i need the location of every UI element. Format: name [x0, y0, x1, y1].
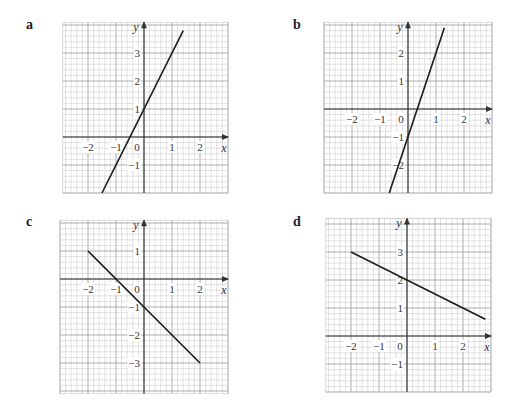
x-axis-label: x [220, 141, 227, 155]
y-tick-label: 2 [399, 47, 405, 59]
y-axis-label: y [132, 20, 139, 34]
y-axis-label: y [396, 20, 403, 34]
y-tick-label: 2 [135, 75, 141, 87]
y-tick-label: −1 [128, 301, 140, 313]
y-tick-label: −1 [392, 131, 404, 143]
x-tick-label: −1 [374, 113, 386, 125]
graph-c: xy−2−1012−3−2−11 [60, 218, 229, 394]
x-tick-label: 2 [197, 141, 203, 153]
graph-d: xy−2−1012−1123 [326, 216, 492, 392]
x-tick-label: −2 [82, 283, 94, 295]
graph-b: xy−2−1012−2−112 [324, 20, 493, 193]
x-tick-label: 1 [169, 141, 175, 153]
y-tick-label: −3 [128, 357, 140, 369]
y-tick-label: 3 [135, 47, 141, 59]
plot-line-a [102, 31, 183, 193]
axes-c: xy−2−1012−3−2−11 [60, 218, 229, 394]
x-axis-label: x [220, 283, 227, 297]
y-tick-label: 3 [398, 246, 404, 258]
x-tick-label: −1 [110, 141, 122, 153]
y-tick-label: 1 [398, 302, 404, 314]
x-tick-label: 2 [460, 340, 466, 352]
y-tick-label: −1 [128, 159, 140, 171]
y-tick-label: 1 [135, 245, 141, 257]
graphs-canvas: xy−2−1012−1123xy−2−1012−2−112xy−2−1012−3… [0, 0, 517, 408]
y-tick-label: −2 [128, 329, 140, 341]
y-axis-label: y [132, 218, 139, 232]
x-tick-label: 0 [397, 340, 403, 352]
x-tick-label: 0 [134, 141, 140, 153]
y-tick-label: −1 [391, 358, 403, 370]
x-tick-label: 2 [197, 283, 203, 295]
x-tick-label: 2 [461, 113, 467, 125]
x-tick-label: −2 [346, 113, 358, 125]
axes-b: xy−2−1012−2−112 [324, 20, 493, 193]
x-tick-label: 1 [432, 340, 438, 352]
y-axis-label: y [395, 216, 402, 230]
graph-a: xy−2−1012−1123 [63, 20, 229, 193]
x-tick-label: 1 [169, 283, 175, 295]
x-tick-label: 0 [398, 113, 404, 125]
x-tick-label: 1 [433, 113, 439, 125]
x-axis-label: x [483, 340, 490, 354]
x-tick-label: −2 [345, 340, 357, 352]
x-tick-label: 0 [134, 283, 140, 295]
x-axis-label: x [484, 113, 491, 127]
x-tick-label: −1 [110, 283, 122, 295]
y-tick-label: 1 [135, 103, 141, 115]
grid-d [326, 218, 491, 392]
x-tick-label: −1 [373, 340, 385, 352]
x-tick-label: −2 [82, 141, 94, 153]
y-tick-label: 1 [399, 75, 405, 87]
